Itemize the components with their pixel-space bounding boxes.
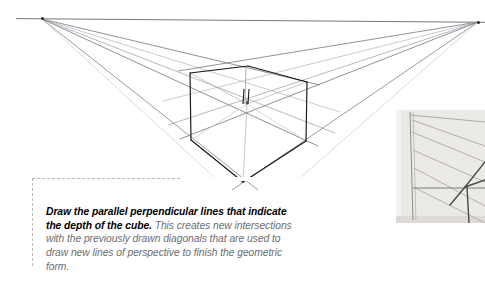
left-ray-center	[42, 19, 335, 133]
cube-front-vertical-line-dark	[248, 89, 249, 104]
right-ray-upper-diagonal	[163, 22, 478, 101]
cube-edge-vertical-left	[190, 73, 191, 140]
left-ray-bottom-edge	[42, 19, 318, 146]
reference-photograph-content	[396, 110, 485, 223]
cube-front-vertical-line-dark2	[243, 89, 244, 104]
photo-paper-shadow-bottom	[396, 216, 485, 223]
cube-edge-bottom-front-left	[191, 140, 243, 182]
cube-edge-top-back-left	[190, 66, 248, 73]
page-root: Draw the parallel perpendicular lines th…	[0, 0, 485, 286]
reference-photograph	[396, 110, 485, 223]
right-vanishing-point-marker	[477, 21, 480, 24]
caption-block: Draw the parallel perpendicular lines th…	[32, 178, 300, 266]
construction-hidden-bottom-left	[191, 104, 247, 140]
cube-edge-vertical-right	[306, 82, 307, 141]
cube-edge-top-back-right	[248, 66, 307, 82]
left-ray-outer-diagonal	[42, 19, 215, 178]
left-ray-upper-diagonal	[42, 19, 340, 112]
cube-edge-bottom-front-right	[243, 141, 306, 182]
horizon-line-group	[16, 19, 485, 23]
left-vanishing-point-marker	[41, 17, 44, 20]
caption-text: Draw the parallel perpendicular lines th…	[46, 205, 296, 273]
construction-hidden-top-left	[190, 73, 247, 104]
right-ray-top-edge	[178, 22, 478, 71]
construction-hidden-bottom-right	[247, 104, 306, 141]
construction-hidden-vertical	[243, 104, 247, 182]
horizon-line	[16, 19, 485, 23]
